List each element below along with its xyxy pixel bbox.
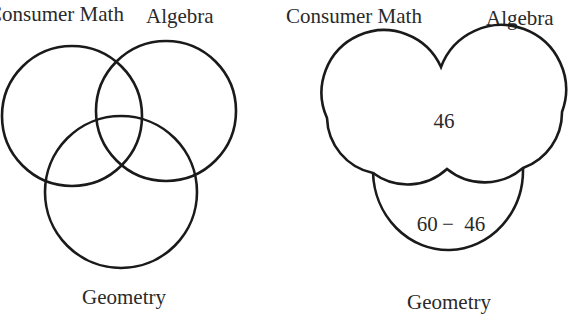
geometry-circle — [45, 116, 197, 268]
union-region-value: 46 — [434, 109, 455, 133]
right-venn-diagram: Consumer Math Algebra 46 60 − 46 Geometr… — [286, 4, 566, 314]
left-algebra-label: Algebra — [146, 4, 214, 28]
left-consumer-math-label: Consumer Math — [0, 2, 124, 26]
algebra-circle — [96, 41, 236, 181]
geometry-only-region-value: 60 − 46 — [417, 212, 486, 236]
left-venn-diagram: Consumer Math Algebra Geometry — [0, 2, 236, 309]
consumer-math-algebra-union-outline — [322, 25, 566, 184]
venn-diagrams-canvas: Consumer Math Algebra Geometry Consumer … — [0, 0, 574, 314]
right-geometry-label: Geometry — [407, 290, 491, 314]
right-consumer-math-label: Consumer Math — [286, 4, 422, 28]
left-geometry-label: Geometry — [82, 285, 166, 309]
